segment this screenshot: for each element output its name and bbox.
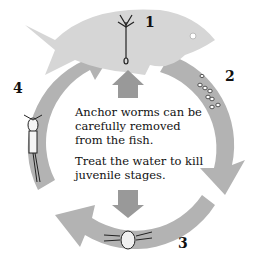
stage-number-3: 3 bbox=[178, 235, 188, 251]
arrow-up-icon bbox=[112, 70, 144, 98]
stage-number-1: 1 bbox=[145, 14, 155, 30]
stage-number-2: 2 bbox=[225, 68, 235, 84]
anchor-worm-life-cycle-diagram: 1 2 3 4 Anchor worms can be carefully re… bbox=[0, 0, 258, 257]
arrow-down-icon bbox=[112, 190, 144, 218]
caption-removal: Anchor worms can be carefully removed fr… bbox=[75, 105, 205, 147]
caption-treatment: Treat the water to kill juvenile stages. bbox=[75, 154, 205, 182]
stage-number-4: 4 bbox=[13, 80, 23, 96]
